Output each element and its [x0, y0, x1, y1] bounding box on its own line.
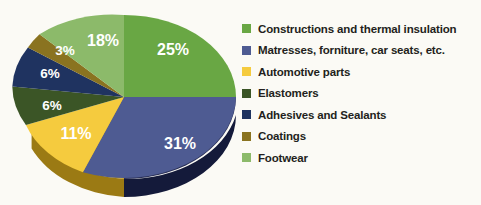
legend-swatch-icon — [242, 46, 251, 55]
legend-item-automotive[interactable]: Automotive parts — [240, 61, 481, 83]
legend-swatch-icon — [242, 132, 251, 141]
legend-item-label: Footwear — [258, 152, 308, 164]
legend-item-label: Elastomers — [258, 87, 319, 99]
slice-value-matresses: 31% — [164, 135, 196, 152]
legend-swatch-icon — [242, 67, 251, 76]
legend-item-label: Matresses, forniture, car seats, etc. — [258, 44, 445, 56]
legend-item-constructions[interactable]: Constructions and thermal insulation — [240, 18, 481, 40]
legend-item-matresses[interactable]: Matresses, forniture, car seats, etc. — [240, 40, 481, 62]
slice-value-footwear: 18% — [87, 32, 119, 49]
legend-item-adhesives[interactable]: Adhesives and Sealants — [240, 104, 481, 126]
legend-item-coatings[interactable]: Coatings — [240, 126, 481, 148]
legend-item-label: Automotive parts — [258, 66, 350, 78]
legend-swatch-icon — [242, 110, 251, 119]
legend-item-footwear[interactable]: Footwear — [240, 147, 481, 169]
pie-svg: 25% 31% 11% 6% 6% 3% 18% — [8, 2, 240, 205]
slice-value-elastomers: 6% — [42, 98, 62, 113]
pie-chart-figure: 25% 31% 11% 6% 6% 3% 18% Constructions a… — [0, 0, 481, 205]
legend-item-label: Coatings — [258, 130, 306, 142]
legend-item-elastomers[interactable]: Elastomers — [240, 83, 481, 105]
slice-value-automotive: 11% — [60, 125, 91, 142]
slice-value-adhesives: 6% — [40, 66, 60, 81]
legend-item-label: Adhesives and Sealants — [258, 109, 386, 121]
legend-swatch-icon — [242, 89, 251, 98]
pie-chart-graphic: 25% 31% 11% 6% 6% 3% 18% — [8, 2, 240, 205]
slice-value-coatings: 3% — [55, 43, 75, 58]
legend-item-label: Constructions and thermal insulation — [258, 23, 456, 35]
slice-value-constructions: 25% — [157, 41, 189, 58]
chart-legend: Constructions and thermal insulation Mat… — [240, 18, 481, 169]
legend-swatch-icon — [242, 24, 251, 33]
legend-swatch-icon — [242, 153, 251, 162]
